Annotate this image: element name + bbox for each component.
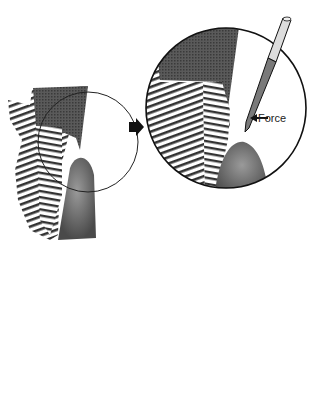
arrow-right-icon (129, 118, 144, 136)
step1-panel (140, 17, 313, 200)
overview-panel (8, 86, 138, 240)
force-label: Force (258, 112, 286, 124)
diagram-canvas (0, 0, 313, 395)
